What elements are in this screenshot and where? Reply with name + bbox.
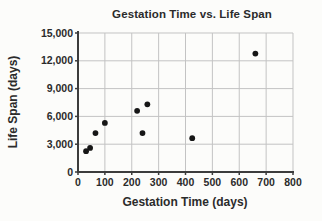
x-tick-label: 500 xyxy=(204,176,222,188)
y-axis-label: Life Span (days) xyxy=(6,31,22,173)
data-point xyxy=(134,108,140,114)
data-point xyxy=(87,145,93,151)
x-tick-label: 100 xyxy=(96,176,114,188)
x-tick-label: 700 xyxy=(257,176,275,188)
y-tick-label: 3,000 xyxy=(47,138,73,150)
y-tick-label: 9,000 xyxy=(47,82,73,94)
x-axis-label: Gestation Time (days) xyxy=(48,195,322,209)
data-point xyxy=(252,51,258,57)
x-tick-label: 400 xyxy=(177,176,195,188)
data-point xyxy=(189,135,195,141)
x-tick-label: 300 xyxy=(150,176,168,188)
x-tick-label: 800 xyxy=(284,176,302,188)
data-point xyxy=(93,130,99,136)
y-tick-label: 0 xyxy=(67,166,73,178)
x-tick-label: 600 xyxy=(230,176,248,188)
data-point xyxy=(140,130,146,136)
chart-figure: Gestation Time vs. Life Span 01002003004… xyxy=(0,0,322,221)
x-tick-label: 200 xyxy=(123,176,141,188)
y-tick-label: 15,000 xyxy=(41,27,73,39)
data-point xyxy=(144,101,150,107)
scatter-plot-area: 010020030040050060070080003,0006,0009,00… xyxy=(0,0,322,221)
x-tick-label: 0 xyxy=(75,176,81,188)
data-point xyxy=(102,120,108,126)
y-tick-label: 6,000 xyxy=(47,110,73,122)
y-tick-label: 12,000 xyxy=(41,54,73,66)
